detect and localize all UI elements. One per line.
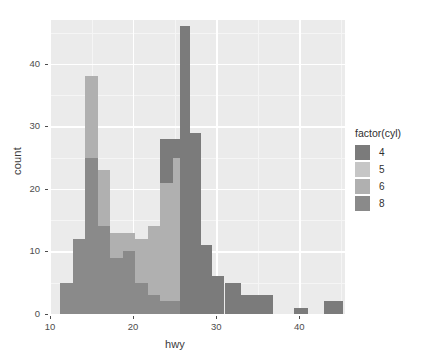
histogram-bar-segment: [123, 251, 135, 314]
histogram-bar-segment: [110, 258, 122, 314]
y-tick-label: 0: [18, 308, 40, 319]
y-tick-mark: [45, 189, 48, 190]
x-tick-mark: [299, 316, 300, 319]
y-tick-label: 30: [18, 120, 40, 131]
y-tick-mark: [45, 251, 48, 252]
histogram-bar-segment: [85, 158, 97, 314]
histogram-bar-segment: [73, 239, 85, 314]
histogram-bar-segment: [190, 133, 201, 314]
x-tick-mark: [216, 316, 217, 319]
histogram-bar-segment: [98, 226, 110, 314]
legend-item-5[interactable]: 5: [355, 161, 425, 178]
histogram-bar-segment: [225, 283, 242, 314]
histogram-bar-segment: [160, 139, 172, 183]
y-tick-mark: [45, 314, 48, 315]
histogram-bar-segment: [173, 158, 180, 302]
legend-item-4[interactable]: 4: [355, 144, 425, 161]
histogram-bar-segment: [160, 183, 172, 302]
histogram-bar-segment: [98, 170, 110, 226]
histogram-bar-segment: [60, 283, 72, 314]
x-tick-label: 10: [38, 321, 62, 332]
gridline-x-major: [50, 20, 51, 314]
y-axis-title: count: [11, 131, 23, 191]
histogram-plot: 010203040 count 10203040 hwy factor(cyl)…: [0, 0, 425, 364]
y-tick-mark: [45, 126, 48, 127]
x-axis-title: hwy: [0, 338, 350, 350]
gridline-x-major: [216, 20, 217, 314]
x-tick-mark: [50, 316, 51, 319]
legend-title: factor(cyl): [355, 127, 425, 139]
histogram-bar-segment: [241, 295, 273, 314]
legend-swatch-icon: [355, 196, 370, 211]
histogram-bar-segment: [173, 301, 180, 314]
legend-swatch-icon: [355, 145, 370, 160]
gridline-y-major: [50, 64, 345, 65]
histogram-bar-segment: [173, 139, 180, 158]
histogram-bar-segment: [180, 26, 191, 314]
legend: factor(cyl) 4568: [355, 127, 425, 212]
gridline-x-major: [299, 20, 300, 314]
y-tick-label: 40: [18, 58, 40, 69]
legend-swatch-icon: [355, 179, 370, 194]
histogram-bar-segment: [148, 295, 160, 314]
histogram-bar-segment: [212, 276, 224, 314]
histogram-bar-segment: [123, 233, 135, 252]
x-tick-label: 30: [204, 321, 228, 332]
y-tick-label: 10: [18, 245, 40, 256]
histogram-bar-segment: [135, 283, 147, 314]
legend-label: 4: [379, 147, 385, 158]
x-tick-label: 40: [287, 321, 311, 332]
histogram-bar-segment: [110, 233, 122, 258]
histogram-bar-segment: [85, 76, 97, 157]
plot-panel: [50, 20, 345, 314]
x-tick-label: 20: [121, 321, 145, 332]
x-tick-mark: [133, 316, 134, 319]
histogram-bar-segment: [294, 308, 307, 314]
legend-item-8[interactable]: 8: [355, 195, 425, 212]
histogram-bar-segment: [324, 301, 342, 314]
histogram-bar-segment: [160, 301, 172, 314]
histogram-bar-segment: [201, 245, 212, 314]
gridline-y-minor: [50, 33, 345, 34]
histogram-bar-segment: [148, 226, 160, 295]
legend-swatch-icon: [355, 162, 370, 177]
y-tick-mark: [45, 64, 48, 65]
histogram-bar-segment: [135, 239, 147, 283]
legend-item-6[interactable]: 6: [355, 178, 425, 195]
legend-label: 8: [379, 198, 385, 209]
legend-label: 6: [379, 181, 385, 192]
legend-items: 4568: [355, 144, 425, 212]
legend-label: 5: [379, 164, 385, 175]
